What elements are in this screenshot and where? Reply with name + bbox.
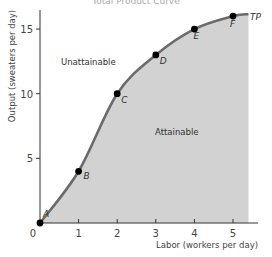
x-tick-label: 2 bbox=[114, 228, 120, 239]
region-label-attainable: Attainable bbox=[155, 127, 198, 137]
y-tick-label: 15 bbox=[20, 24, 33, 35]
y-tick-label: 5 bbox=[27, 153, 33, 164]
y-axis-ticks: 51015 bbox=[20, 24, 40, 164]
point-label-d: D bbox=[160, 56, 167, 66]
total-product-chart: Total Product Curve 012345 51015 ABCDEF … bbox=[0, 0, 272, 257]
attainable-region bbox=[40, 14, 248, 223]
x-tick-label: 1 bbox=[75, 228, 81, 239]
point-label-c: C bbox=[121, 95, 128, 105]
data-point-d bbox=[152, 52, 159, 59]
x-tick-label: 5 bbox=[230, 228, 236, 239]
x-axis-label: Labor (workers per day) bbox=[156, 240, 258, 250]
x-tick-label: 0 bbox=[30, 228, 36, 239]
data-point-b bbox=[75, 168, 82, 175]
y-axis-label: Output (sweaters per day) bbox=[7, 10, 17, 122]
chart-title: Total Product Curve bbox=[91, 0, 180, 6]
y-tick-label: 10 bbox=[20, 89, 33, 100]
curve-label-tp: TP bbox=[250, 12, 261, 22]
point-label-e: E bbox=[193, 31, 199, 41]
region-label-unattainable: Unattainable bbox=[61, 57, 116, 67]
data-point-c bbox=[114, 90, 121, 97]
point-label-f: F bbox=[230, 19, 236, 29]
point-label-b: B bbox=[84, 171, 90, 181]
data-point-a bbox=[37, 220, 44, 227]
x-tick-label: 3 bbox=[153, 228, 159, 239]
x-tick-label: 4 bbox=[191, 228, 197, 239]
point-label-a: A bbox=[42, 209, 49, 219]
